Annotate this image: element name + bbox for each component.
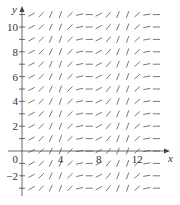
- slope-segment: [49, 98, 52, 105]
- slope-segment: [39, 124, 44, 129]
- y-axis-label: y: [11, 3, 17, 15]
- slope-segment: [59, 61, 61, 68]
- slope-segment: [76, 163, 83, 165]
- slope-segment: [76, 26, 83, 28]
- y-tick-label: 4: [13, 95, 19, 107]
- y-tick-label: −2: [6, 170, 18, 182]
- slope-segment: [67, 62, 72, 67]
- slope-segment: [59, 135, 61, 142]
- slope-segment: [39, 186, 44, 191]
- slope-segment: [106, 37, 111, 43]
- slope-segment: [126, 185, 128, 192]
- slope-segment: [49, 86, 52, 93]
- slope-segment: [117, 110, 120, 117]
- slope-segment: [39, 173, 44, 178]
- slope-segment: [143, 88, 150, 89]
- slope-segment: [106, 173, 111, 179]
- x-tick-label: 4: [58, 153, 64, 165]
- slope-segment: [67, 173, 72, 178]
- slope-segment: [59, 185, 61, 192]
- slope-segment: [59, 86, 61, 93]
- slope-segment: [59, 172, 61, 179]
- slope-segment: [143, 51, 150, 52]
- slope-segment: [39, 74, 44, 79]
- slope-segment: [39, 161, 44, 166]
- slope-segment: [67, 12, 72, 17]
- slope-segment: [135, 124, 140, 129]
- slope-segment: [28, 187, 34, 190]
- slope-segment: [106, 49, 111, 55]
- slope-segment: [96, 174, 102, 177]
- slope-segment: [67, 86, 72, 91]
- slope-segment: [76, 88, 83, 90]
- slope-segment: [143, 76, 150, 77]
- slope-segment: [49, 135, 52, 142]
- slope-segment: [117, 135, 120, 142]
- slope-segment: [126, 24, 128, 31]
- slope-segment: [49, 173, 52, 180]
- slope-segment: [28, 137, 34, 140]
- slope-segment: [39, 24, 44, 29]
- slope-segment: [126, 123, 128, 130]
- slope-segment: [96, 38, 102, 41]
- y-tick-label: 2: [13, 120, 19, 132]
- slope-segment: [67, 124, 72, 129]
- slope-segment: [135, 12, 140, 17]
- slope-segment: [28, 87, 34, 90]
- slope-segment: [143, 101, 150, 102]
- slope-segment: [126, 73, 128, 80]
- slope-segment: [117, 36, 120, 43]
- slope-segment: [126, 110, 128, 117]
- slope-segment: [59, 24, 61, 31]
- slope-segment: [39, 49, 44, 54]
- slope-segment: [76, 63, 83, 64]
- slope-segment: [39, 62, 44, 67]
- slope-segment: [59, 73, 61, 80]
- slope-segment: [106, 12, 111, 18]
- slope-segment: [96, 75, 102, 78]
- x-tick-label: 12: [132, 153, 143, 165]
- slope-segment: [67, 74, 72, 79]
- slope-segment: [135, 37, 140, 42]
- y-tick-label: 10: [7, 21, 19, 33]
- slope-segment: [143, 14, 150, 15]
- slope-segment: [39, 136, 44, 141]
- slope-segment: [143, 175, 150, 176]
- x-tick-label: 0: [13, 153, 19, 165]
- slope-segment: [117, 98, 120, 105]
- slope-segment: [135, 99, 140, 104]
- slope-segment: [117, 86, 120, 93]
- slope-segment: [59, 123, 61, 130]
- slope-segment: [49, 24, 52, 31]
- slope-segment: [49, 111, 52, 118]
- slope-segment: [126, 61, 128, 68]
- slope-segment: [76, 14, 83, 16]
- slope-segment: [126, 172, 128, 179]
- slope-segment: [39, 12, 44, 17]
- slope-segment: [106, 136, 111, 142]
- slope-segment: [76, 51, 83, 53]
- slope-segment: [96, 87, 102, 90]
- slope-segment: [143, 64, 150, 65]
- slope-segment: [28, 38, 34, 41]
- slope-segment: [96, 100, 102, 103]
- slope-segment: [49, 61, 52, 68]
- slope-segment: [28, 63, 34, 66]
- slope-segment: [143, 188, 150, 189]
- slope-segment: [135, 62, 140, 67]
- slope-segment: [106, 111, 111, 117]
- slope-segment: [59, 48, 61, 55]
- slope-segment: [59, 98, 61, 105]
- slope-segment: [135, 186, 140, 191]
- slope-segment: [117, 160, 120, 167]
- slope-segment: [135, 136, 140, 141]
- slope-segment: [117, 48, 120, 55]
- slope-segment: [126, 160, 128, 167]
- y-tick-label: 6: [13, 71, 19, 83]
- slope-segment: [126, 86, 128, 93]
- slope-segment: [96, 187, 102, 190]
- slope-segment: [49, 185, 52, 192]
- slope-segment: [28, 50, 34, 53]
- slope-segment: [39, 99, 44, 104]
- slope-segment: [117, 172, 120, 179]
